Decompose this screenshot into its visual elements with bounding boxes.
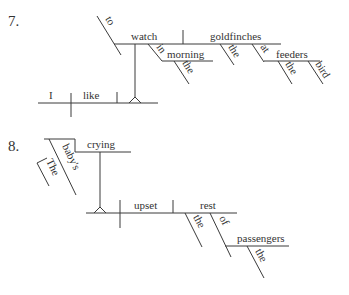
word-goldfinches: goldfinches	[210, 30, 261, 42]
diagram-7: 7. I like to watch goldfinches in mornin…	[8, 13, 333, 117]
word-bird: bird	[313, 59, 333, 81]
word-morning: morning	[167, 48, 205, 60]
word-the-morning: the	[180, 58, 197, 76]
word-watch: watch	[131, 30, 158, 42]
diagram-number-7: 7.	[8, 13, 19, 29]
word-upset: upset	[134, 199, 157, 211]
word-the-babys: The	[44, 157, 62, 178]
word-subject: I	[49, 89, 53, 101]
word-of: of	[217, 213, 232, 227]
pedestal-foot-8	[94, 207, 106, 213]
word-verb: like	[83, 89, 100, 101]
word-the-passengers: the	[253, 246, 270, 264]
word-feeders: feeders	[276, 48, 308, 60]
word-crying: crying	[87, 138, 116, 150]
word-the-rest: the	[191, 212, 208, 230]
word-to: to	[103, 14, 118, 28]
diagram-number-8: 8.	[8, 138, 19, 154]
word-at: at	[258, 41, 272, 54]
pedestal-foot-7	[129, 97, 141, 103]
word-rest: rest	[200, 199, 216, 211]
diagram-8: 8. crying baby's The upset rest the of p…	[8, 138, 289, 278]
sentence-diagrams: 7. I like to watch goldfinches in mornin…	[0, 0, 349, 295]
word-passengers: passengers	[237, 232, 285, 244]
word-babys: baby's	[60, 142, 83, 172]
